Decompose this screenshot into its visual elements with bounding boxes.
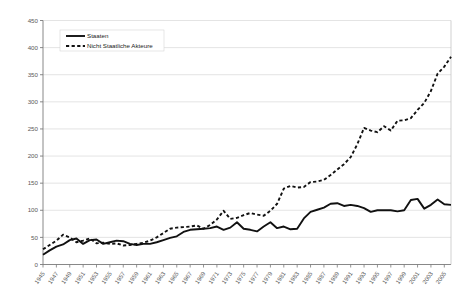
y-tick-label: 100 [28, 206, 39, 213]
x-tick-label: 1961 [140, 270, 153, 285]
x-tick-label: 1983 [288, 270, 301, 285]
x-tick-label: 1951 [74, 270, 87, 285]
x-tick-label: 1969 [194, 270, 207, 285]
x-tick-label: 1995 [368, 270, 381, 285]
x-tick-label: 1993 [354, 270, 367, 285]
y-tick-label: 50 [31, 234, 38, 241]
x-tick-label: 1945 [33, 270, 46, 285]
x-tick-label: 1987 [314, 270, 327, 285]
x-tick-label: 1949 [60, 270, 73, 285]
x-tick-label: 1999 [395, 270, 408, 285]
x-tick-label: 1967 [181, 270, 194, 285]
x-tick-label: 1977 [247, 270, 260, 285]
x-tick-label: 1953 [87, 270, 100, 285]
y-tick-label: 300 [28, 98, 39, 105]
x-tick-label: 1991 [341, 270, 354, 285]
y-tick-label: 400 [28, 44, 39, 51]
x-tick-label: 1957 [114, 270, 127, 285]
y-tick-label: 350 [28, 71, 39, 78]
plot-background [43, 21, 451, 265]
x-tick-label: 1979 [261, 270, 274, 285]
y-tick-label: 150 [28, 179, 39, 186]
x-tick-label: 1985 [301, 270, 314, 285]
x-tick-label: 1959 [127, 270, 140, 285]
legend-label: Nicht Staatliche Akteure [87, 42, 153, 49]
x-tick-label: 2001 [408, 270, 421, 285]
x-tick-label: 2003 [421, 270, 434, 285]
y-tick-label: 200 [28, 152, 39, 159]
y-tick-label: 0 [35, 261, 39, 268]
x-tick-label: 1989 [328, 270, 341, 285]
x-tick-label: 1971 [207, 270, 220, 285]
y-tick-label: 450 [28, 17, 39, 24]
legend-label: Staaten [87, 32, 109, 39]
line-chart: 0501001502002503003504004501945194719491… [0, 0, 473, 301]
x-tick-label: 1997 [381, 270, 394, 285]
x-tick-label: 1973 [221, 270, 234, 285]
x-tick-label: 1981 [274, 270, 287, 285]
x-tick-label: 1947 [47, 270, 60, 285]
x-tick-label: 1975 [234, 270, 247, 285]
x-tick-label: 1963 [154, 270, 167, 285]
x-tick-label: 1965 [167, 270, 180, 285]
chart-container: 0501001502002503003504004501945194719491… [0, 0, 473, 301]
y-tick-label: 250 [28, 125, 39, 132]
x-tick-label: 1955 [100, 270, 113, 285]
x-tick-label: 2005 [435, 270, 448, 285]
